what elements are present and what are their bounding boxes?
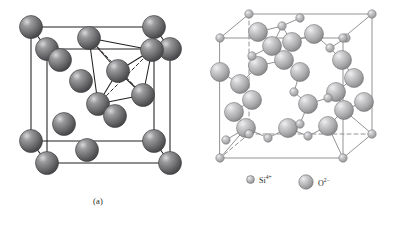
cube-corner-marker — [339, 34, 347, 42]
cube-corner-marker — [368, 130, 376, 138]
oxygen-atom — [319, 117, 338, 136]
oxygen-atom — [211, 63, 230, 82]
cube-corner-marker — [339, 154, 347, 162]
large-sphere-icon — [298, 174, 314, 190]
panel-a-svg — [0, 0, 196, 196]
atom-a — [78, 27, 101, 50]
atom-a — [107, 60, 130, 83]
panel-a-diamond-cell: (a) — [0, 0, 196, 225]
legend-charge-o: 2− — [324, 177, 330, 183]
figure-container: (a) — [0, 0, 401, 225]
oxygen-atom — [335, 101, 354, 120]
cube-corner-marker — [245, 130, 253, 138]
oxygen-atom — [345, 69, 364, 88]
oxygen-atom — [243, 91, 262, 110]
oxygen-atom — [249, 23, 268, 42]
atom-a — [143, 16, 166, 39]
oxygen-atom — [333, 51, 352, 70]
atom-a — [76, 139, 99, 162]
atom-group-a — [20, 16, 182, 175]
atom-a — [20, 130, 43, 153]
oxygen-atom — [263, 37, 282, 56]
oxygen-atom — [225, 103, 244, 122]
legend-label-o: O2− — [318, 177, 330, 188]
oxygen-atom — [305, 25, 324, 44]
silicon-atom — [290, 88, 298, 96]
legend-label-si: Si4+ — [259, 174, 272, 185]
atom-a — [104, 105, 127, 128]
cube-corner-marker — [368, 10, 376, 18]
legend-item-o: O2− — [298, 174, 330, 190]
atom-a — [53, 113, 76, 136]
legend-charge-si: 4+ — [266, 174, 272, 180]
atom-a — [141, 39, 164, 62]
silicon-atom — [326, 44, 334, 52]
cube-corner-marker — [216, 34, 224, 42]
oxygen-atom — [283, 33, 302, 52]
silicon-atom — [324, 94, 332, 102]
atom-a — [70, 70, 93, 93]
oxygen-atom — [355, 93, 374, 112]
panel-b-caption: (b) — [392, 192, 401, 202]
silicon-atom — [248, 52, 256, 60]
atom-a — [20, 16, 43, 39]
small-sphere-icon — [246, 175, 255, 184]
silicon-atom — [222, 136, 230, 144]
atom-a — [132, 84, 155, 107]
cube-corner-marker — [216, 154, 224, 162]
oxygen-atom — [231, 75, 250, 94]
silicon-atom — [264, 134, 272, 142]
silicon-atom — [304, 132, 312, 140]
silicon-atom — [296, 120, 304, 128]
atom-a — [49, 49, 72, 72]
oxygen-atom — [279, 119, 298, 138]
silicon-atom — [296, 14, 304, 22]
oxygen-atom — [291, 63, 310, 82]
cube-corner-marker — [245, 10, 253, 18]
atom-a — [159, 152, 182, 175]
atom-a — [143, 130, 166, 153]
silicon-atom — [278, 22, 286, 30]
atom-a — [36, 152, 59, 175]
legend-symbol-si: Si — [259, 176, 266, 185]
legend: Si4+ O2− — [196, 174, 401, 192]
legend-item-si: Si4+ — [246, 174, 272, 185]
oxygen-atom — [299, 95, 318, 114]
panel-b-svg — [196, 0, 401, 180]
panel-a-caption: (a) — [0, 196, 196, 206]
